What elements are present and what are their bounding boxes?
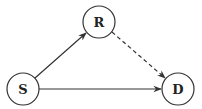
node-d: D <box>162 73 194 105</box>
node-s: S <box>7 73 39 105</box>
edge-s-to-r <box>35 33 86 78</box>
node-d-label: D <box>172 82 183 97</box>
edge-r-to-d <box>112 32 165 78</box>
node-s-label: S <box>18 82 27 97</box>
node-r: R <box>83 6 115 38</box>
node-r-label: R <box>94 15 105 30</box>
relay-diagram: S R D <box>0 0 202 109</box>
